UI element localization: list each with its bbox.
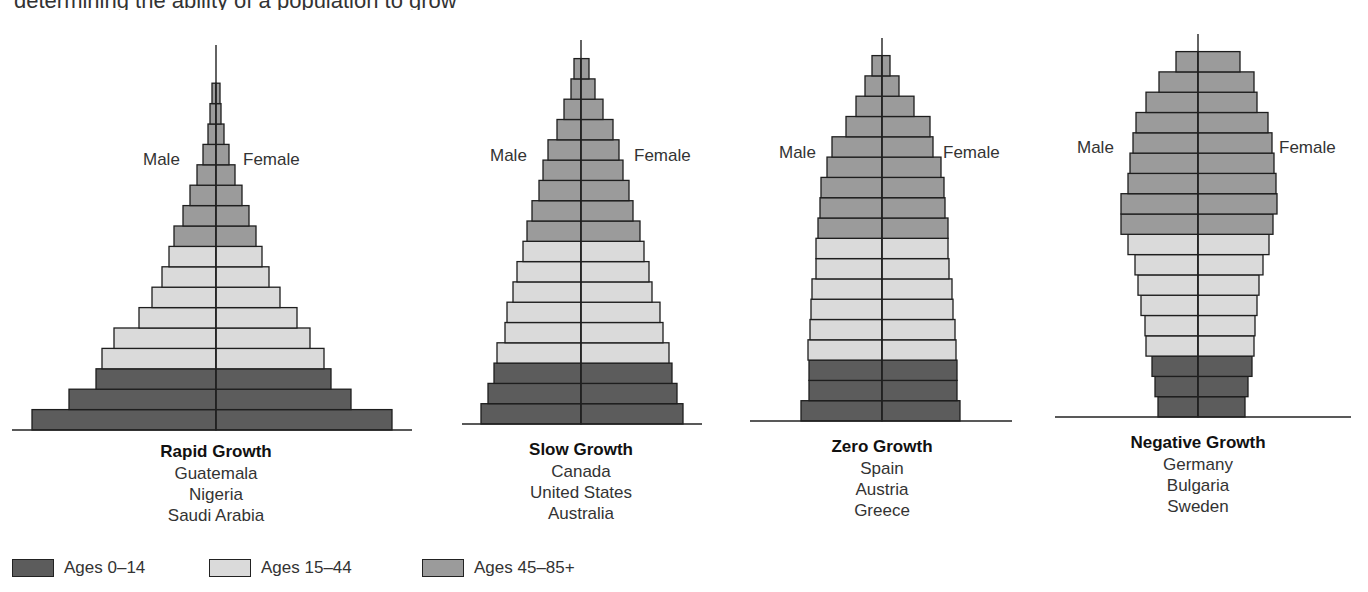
panel-caption: Negative GrowthGermanyBulgariaSweden [1078,432,1318,517]
male-bar [162,267,216,287]
female-bar [882,157,941,177]
female-bar [216,348,324,368]
male-bar [812,279,882,299]
female-bar [581,221,640,241]
female-bar [1198,336,1254,356]
male-bar [811,299,882,319]
male-bar [1145,316,1198,336]
female-bar [882,96,914,116]
female-bar [581,323,663,343]
female-bar [581,140,619,160]
female-bar [882,218,948,238]
female-bar [581,383,677,403]
country-name: Austria [762,479,1002,500]
male-bar [102,348,216,368]
male-bar [481,404,581,424]
female-bar [1198,92,1257,112]
female-bar [216,206,249,226]
panel-title: Zero Growth [762,436,1002,458]
female-bar [216,104,221,124]
female-bar [882,299,953,319]
female-bar [1198,214,1273,234]
male-bar [527,221,581,241]
female-bar [1198,275,1259,295]
male-bar [557,120,581,140]
male-bar [505,323,581,343]
male-bar [1155,376,1198,396]
male-bar [808,340,882,360]
male-bar [1152,356,1198,376]
male-bar [1146,92,1198,112]
female-label: Female [943,143,1000,163]
male-bar [1133,133,1198,153]
female-bar [581,79,595,99]
male-bar [818,218,882,238]
country-name: Nigeria [96,484,336,505]
female-bar [216,165,235,185]
female-bar [1198,133,1272,153]
female-bar [882,177,944,197]
female-bar [581,404,683,424]
male-bar [174,226,216,246]
legend-label: Ages 0–14 [64,558,145,578]
male-bar [169,246,216,266]
male-bar [846,117,882,137]
female-bar [1198,113,1268,133]
female-bar [1198,194,1277,214]
swatch-ages-45-85 [422,559,464,577]
male-bar [114,328,216,348]
male-bar [1138,275,1198,295]
male-bar [1146,336,1198,356]
male-bar [197,165,216,185]
male-bar [208,124,216,144]
male-bar [548,140,581,160]
male-bar [152,287,216,307]
country-name: Sweden [1078,496,1318,517]
male-bar [494,363,581,383]
pyramid-slow-growth [462,40,702,424]
male-bar [1135,255,1198,275]
male-bar [564,99,581,119]
legend-label: Ages 45–85+ [474,558,575,578]
male-bar [210,104,216,124]
country-name: Guatemala [96,463,336,484]
female-bar [581,241,644,261]
female-bar [216,410,392,430]
panel-caption: Slow GrowthCanadaUnited StatesAustralia [461,439,701,524]
male-bar [856,96,882,116]
legend-item-ages-45-85: Ages 45–85+ [422,558,575,578]
country-name: Greece [762,500,1002,521]
panel-title: Slow Growth [461,439,701,461]
male-bar [820,198,882,218]
female-bar [581,302,660,322]
female-bar [216,267,269,287]
female-bar [1198,316,1255,336]
female-bar [581,363,672,383]
female-bar [882,56,890,76]
male-bar [1128,173,1198,193]
legend-item-ages-15-44: Ages 15–44 [209,558,352,578]
male-bar [497,343,581,363]
male-bar [139,308,216,328]
male-bar [523,241,581,261]
male-bar [203,144,216,164]
male-bar [571,79,581,99]
swatch-ages-15-44 [209,559,251,577]
panel-title: Rapid Growth [96,441,336,463]
female-bar [1198,295,1257,315]
country-name: Canada [461,461,701,482]
female-bar [882,259,949,279]
male-bar [1141,295,1198,315]
female-bar [882,76,899,96]
male-bar [574,59,581,79]
female-bar [1198,72,1254,92]
male-label: Male [1077,138,1114,158]
legend-label: Ages 15–44 [261,558,352,578]
male-bar [532,201,581,221]
panel-caption: Zero GrowthSpainAustriaGreece [762,436,1002,521]
male-bar [816,259,882,279]
panel-caption: Rapid GrowthGuatemalaNigeriaSaudi Arabia [96,441,336,526]
female-label: Female [1279,138,1336,158]
female-bar [1198,173,1276,193]
female-bar [1198,397,1245,417]
